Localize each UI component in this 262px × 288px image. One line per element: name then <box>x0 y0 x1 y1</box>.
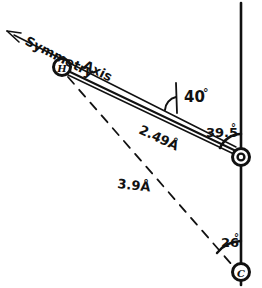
atom-c-label: C <box>237 268 245 279</box>
molecular-geometry-diagram: H C Symmetry Axis 40 ° 39.5 ° 26 ° 2.49Å… <box>0 0 262 288</box>
atom-oxygen-icon <box>233 149 250 166</box>
diagram-canvas: H C Symmetry Axis 40 ° 39.5 ° 26 ° 2.49Å… <box>0 0 262 288</box>
degree-symbol-39-5: ° <box>231 122 236 133</box>
atom-carbon-icon: C <box>233 264 250 281</box>
tick-vertical-40 <box>176 83 177 113</box>
degree-symbol-40: ° <box>203 86 209 99</box>
bond-length-label-ho: 2.49Å <box>137 122 182 153</box>
bond-length-label-hc: 3.9Å <box>117 176 151 194</box>
degree-symbol-26: ° <box>234 232 239 243</box>
angle-label-40: 40 <box>184 88 205 106</box>
angle-arc-40-icon <box>165 97 176 110</box>
dashed-line-h-c <box>68 77 233 266</box>
arrow-up-left-icon <box>7 31 21 42</box>
